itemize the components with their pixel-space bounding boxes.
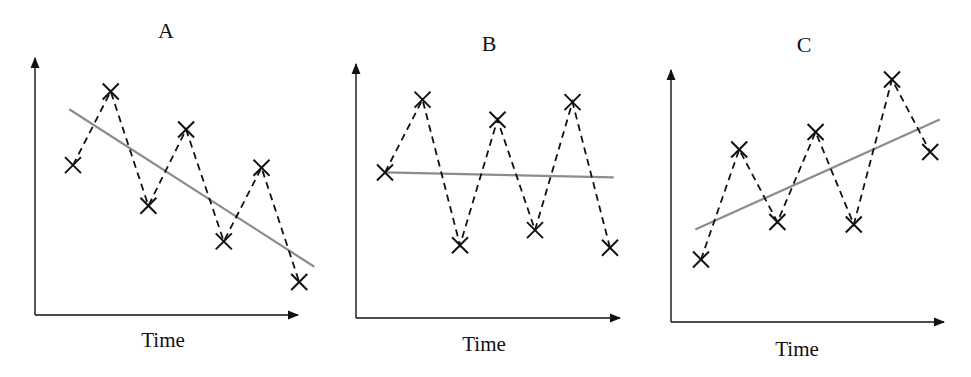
chart-c-xlabel: Time	[775, 337, 819, 362]
x-marker-icon	[808, 124, 824, 140]
x-marker-icon	[731, 142, 747, 158]
x-marker-icon	[291, 274, 307, 290]
chart-panel-b	[356, 64, 620, 318]
x-marker-icon	[452, 237, 468, 253]
trend-line	[69, 109, 314, 266]
x-marker-icon	[140, 198, 156, 214]
data-line	[73, 91, 299, 282]
chart-a-title: A	[158, 18, 174, 44]
chart-b-xlabel: Time	[462, 332, 506, 357]
x-marker-icon	[922, 144, 938, 160]
x-marker-icon	[103, 83, 119, 99]
chart-panel-a	[35, 58, 314, 315]
chart-b-title: B	[482, 31, 497, 57]
x-marker-icon	[65, 157, 81, 173]
x-marker-icon	[178, 122, 194, 138]
x-marker-icon	[415, 92, 431, 108]
x-marker-icon	[846, 217, 862, 233]
x-marker-icon	[602, 240, 618, 256]
chart-a-xlabel: Time	[141, 328, 185, 353]
x-marker-icon	[527, 222, 543, 238]
x-marker-icon	[693, 252, 709, 268]
x-marker-icon	[216, 233, 232, 249]
x-marker-icon	[884, 72, 900, 88]
chart-panel-c	[671, 70, 944, 322]
x-marker-icon	[565, 94, 581, 110]
x-marker-icon	[769, 214, 785, 230]
x-marker-icon	[490, 112, 506, 128]
x-marker-icon	[254, 160, 270, 176]
chart-c-title: C	[797, 32, 812, 58]
data-line	[701, 80, 930, 260]
trend-line	[385, 172, 614, 177]
